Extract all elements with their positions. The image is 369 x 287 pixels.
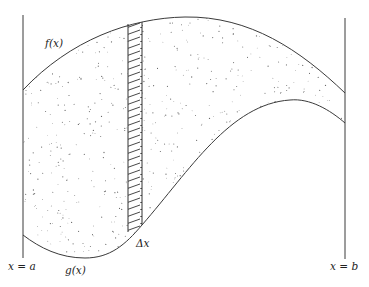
- lower-curve-g: [23, 100, 345, 258]
- label-delta-x: Δx: [136, 238, 150, 249]
- stippled-region: [23, 15, 346, 260]
- delta-x-strip: [128, 22, 142, 232]
- label-x-equals-b: x = b: [330, 261, 358, 272]
- area-between-curves-diagram: f(x) g(x) Δx x = a x = b: [0, 0, 369, 287]
- label-g: g(x): [65, 265, 86, 276]
- label-x-equals-a: x = a: [8, 261, 36, 272]
- upper-curve-f: [23, 17, 345, 93]
- label-f: f(x): [45, 38, 63, 49]
